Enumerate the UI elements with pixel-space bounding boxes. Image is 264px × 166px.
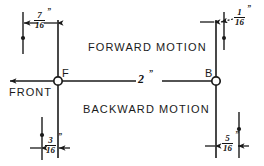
front-label: FRONT [9,86,52,98]
dim-center-span-unit: ” [149,68,154,78]
dim-bottom-right-unit: ” [235,131,239,139]
dim-bottom-right-fraction: 5 16 ” [222,134,233,153]
dim-top-right-dot [222,36,226,40]
engineering-drawing-canvas: FORWARD MOTION BACKWARD MOTION FRONT F B… [0,0,264,166]
dim-top-right-numerator: 1 [234,8,245,17]
dim-top-left-numerator: 7 [34,11,45,20]
node-marker-b [212,77,220,85]
dim-top-left-fraction: 7 16 ” [34,11,45,30]
dim-bottom-right-numerator: 5 [222,134,233,143]
point-f-label: F [62,67,69,79]
dim-bottom-left-dot [40,133,44,137]
node-marker-f [54,77,62,85]
dim-top-left-denominator: 16 [34,20,45,30]
dim-bottom-left-fraction: 3 16 ” [45,136,56,155]
dim-center-span-value: 2” [138,72,144,87]
dim-top-right-denominator: 16 [234,17,245,27]
point-b-label: B [205,67,212,79]
dim-top-right-unit: ” [247,5,251,13]
dim-top-left-dot [21,36,25,40]
dim-bottom-right-denominator: 16 [222,143,233,153]
dim-bottom-left-numerator: 3 [45,136,56,145]
dim-bottom-left-denominator: 16 [45,145,56,155]
forward-motion-label: FORWARD MOTION [88,41,207,53]
backward-motion-label: BACKWARD MOTION [83,103,210,115]
dim-bottom-left-unit: ” [58,133,62,141]
dim-top-right-leader [221,19,233,22]
dim-top-left-unit: ” [47,8,51,16]
dim-top-right-fraction: 1 16 ” [234,8,245,27]
dim-center-span-number: 2 [138,72,144,86]
